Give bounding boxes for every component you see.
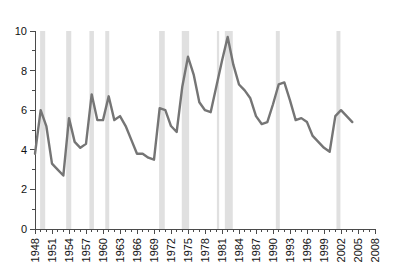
y-tick-label: 4 <box>21 144 27 156</box>
x-tick-label: 2002 <box>335 238 347 262</box>
recession-band <box>40 31 45 229</box>
x-tick-labels-group: 1948195119541957196019631966196919721975… <box>29 238 381 262</box>
x-tick-label: 1984 <box>233 238 245 262</box>
x-tick-label: 1990 <box>267 238 279 262</box>
y-tick-label: 0 <box>21 223 27 235</box>
y-tick-label: 2 <box>21 183 27 195</box>
x-tick-label: 1981 <box>216 238 228 262</box>
x-tick-label: 1957 <box>80 238 92 262</box>
recession-band <box>217 31 219 229</box>
recession-band <box>89 31 94 229</box>
recession-band <box>105 31 109 229</box>
x-tick-label: 1951 <box>46 238 58 262</box>
x-tick-label: 1948 <box>29 238 41 262</box>
unemployment-rate-chart: 0246810 19481951195419571960196319661969… <box>0 0 404 278</box>
recession-band <box>336 31 340 229</box>
x-tick-label: 1963 <box>114 238 126 262</box>
y-tick-label: 10 <box>15 25 27 37</box>
x-tick-label: 1975 <box>182 238 194 262</box>
x-ticks-group <box>35 229 375 234</box>
x-tick-label: 1969 <box>148 238 160 262</box>
x-tick-label: 2008 <box>369 238 381 262</box>
x-tick-label: 1999 <box>318 238 330 262</box>
x-tick-label: 1972 <box>165 238 177 262</box>
x-tick-label: 1993 <box>284 238 296 262</box>
y-tick-label: 6 <box>21 104 27 116</box>
x-tick-label: 1954 <box>63 238 75 262</box>
x-tick-label: 1966 <box>131 238 143 262</box>
x-tick-label: 1996 <box>301 238 313 262</box>
x-tick-label: 1960 <box>97 238 109 262</box>
y-ticks-group <box>30 31 35 229</box>
x-tick-label: 2005 <box>352 238 364 262</box>
y-tick-labels-group: 0246810 <box>15 25 27 235</box>
unemployment-rate-line <box>35 37 352 176</box>
y-tick-label: 8 <box>21 65 27 77</box>
chart-canvas: 0246810 19481951195419571960196319661969… <box>0 0 404 278</box>
recession-band <box>276 31 280 229</box>
x-tick-label: 1987 <box>250 238 262 262</box>
recession-band <box>159 31 165 229</box>
axes-group <box>35 31 375 229</box>
x-tick-label: 1978 <box>199 238 211 262</box>
